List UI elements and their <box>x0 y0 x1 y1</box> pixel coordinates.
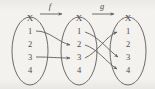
element-middle-4: 4 <box>77 65 82 75</box>
element-domain-3: 3 <box>28 52 32 62</box>
element-domain-2: 2 <box>28 39 32 49</box>
element-domain-4: 4 <box>28 65 33 75</box>
element-middle-2: 2 <box>77 39 81 49</box>
element-middle-3: 3 <box>77 52 81 62</box>
map-line-g-2-to-4 <box>85 45 117 69</box>
element-domain-1: 1 <box>28 26 32 36</box>
map-line-f-3-to-3 <box>36 57 70 58</box>
function-composition-figure: X 1 2 3 4 X 1 2 3 4 X 1 2 3 4 f g <box>0 0 155 89</box>
element-middle-1: 1 <box>77 26 81 36</box>
function-label-g: g <box>100 1 104 11</box>
set-label-codomain: X <box>125 13 132 23</box>
function-label-f: f <box>49 1 53 11</box>
element-codomain-2: 2 <box>126 39 130 49</box>
map-line-f-1-to-2 <box>36 31 70 45</box>
element-codomain-1: 1 <box>126 26 130 36</box>
set-label-domain: X <box>27 13 34 23</box>
set-label-middle: X <box>76 13 83 23</box>
diagram-canvas: X 1 2 3 4 X 1 2 3 4 X 1 2 3 4 f g <box>0 0 155 89</box>
element-codomain-4: 4 <box>126 65 131 75</box>
element-codomain-3: 3 <box>126 52 130 62</box>
